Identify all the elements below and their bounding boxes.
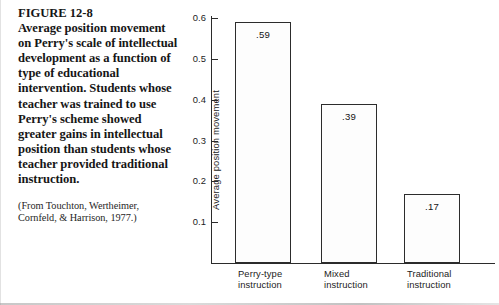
figure-page: FIGURE 12-8 Average position movement on… <box>0 0 499 305</box>
bar-chart: Average position movement 0.10.20.30.40.… <box>160 0 499 305</box>
bar: .17 <box>404 194 460 263</box>
figure-number: FIGURE 12-8 <box>18 6 178 21</box>
figure-caption-block: FIGURE 12-8 Average position movement on… <box>18 6 178 225</box>
y-axis-tick <box>212 141 218 142</box>
category-label: Traditional instruction <box>407 268 452 291</box>
figure-source-citation: (From Touchton, Wertheimer, Cornfeld, & … <box>18 200 178 224</box>
page-left-edge <box>0 0 1 305</box>
bar-value-label: .17 <box>405 201 459 212</box>
x-axis-line <box>211 263 495 264</box>
bar-value-label: .59 <box>236 29 290 40</box>
y-axis-tick <box>212 181 218 182</box>
bar: .39 <box>321 104 377 263</box>
y-axis-tick-label: 0.4 <box>174 94 206 105</box>
y-axis-tick-label: 0.2 <box>174 175 206 186</box>
y-axis-tick-label: 0.6 <box>174 12 206 23</box>
bar: .59 <box>235 22 291 263</box>
y-axis-tick-label: 0.5 <box>174 53 206 64</box>
y-axis-tick-label: 0.3 <box>174 135 206 146</box>
y-axis-tick <box>212 222 218 223</box>
category-label: Mixed instruction <box>324 268 368 291</box>
y-axis-tick <box>212 59 218 60</box>
figure-caption-text: Average position movement on Perry's sca… <box>18 21 178 187</box>
y-axis-tick-label: 0.1 <box>174 216 206 227</box>
y-axis-title: Average position movement <box>210 90 221 210</box>
y-axis-tick <box>212 18 218 19</box>
y-axis-tick <box>212 100 218 101</box>
bar-value-label: .39 <box>322 111 376 122</box>
category-label: Perry-type instruction <box>238 268 282 291</box>
